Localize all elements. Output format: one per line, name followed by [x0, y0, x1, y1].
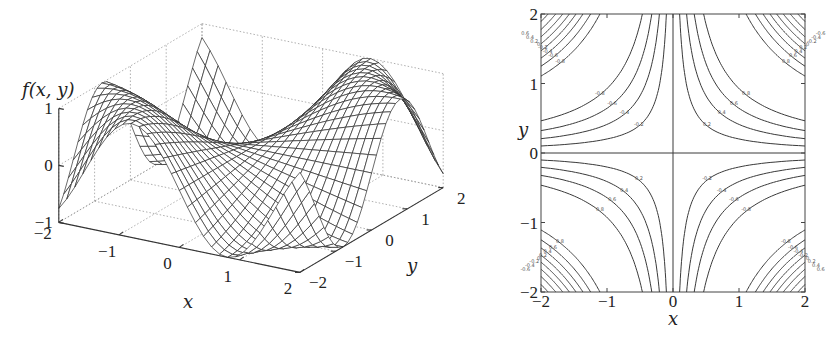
- surface-x-tick-label: −1: [98, 242, 116, 261]
- surface-plot: −2−1012−2−1012−101 f(x, y) x y: [20, 24, 465, 312]
- surface-y-tick-label: −1: [345, 252, 363, 271]
- contour-y-axis-label: y: [517, 119, 529, 140]
- figure: −2−1012−2−1012−101 f(x, y) x y -0.8-0.8-…: [0, 0, 827, 337]
- contour-level-label: 0.6: [789, 52, 797, 58]
- contour-level-label: -0.8: [741, 206, 751, 212]
- surface-x-tick-label: 1: [223, 267, 232, 286]
- contour-x-axis-label: x: [668, 308, 678, 329]
- contour-level-label: 0.8: [742, 90, 750, 96]
- contour-level-label: 0.6: [608, 196, 616, 202]
- contour-level-label: 0.4: [718, 109, 726, 115]
- contour-level-label: -0.8: [555, 58, 565, 64]
- surface-y-tick-label: 2: [457, 189, 466, 208]
- contour-level-label: -0.2: [634, 121, 644, 127]
- surface-y-tick-label: −2: [309, 273, 327, 292]
- contour-level-label: 0.8: [782, 58, 790, 64]
- contour-level-label: -0.6: [729, 196, 739, 202]
- contour-y-tick-label: 1: [530, 75, 539, 94]
- surface-y-axis-label: y: [406, 255, 418, 276]
- contour-level-label: -0.4: [619, 109, 629, 115]
- contour-y-tick-label: 0: [530, 144, 539, 163]
- surface-y-tick-label: 1: [421, 210, 430, 229]
- contour-level-label: 0.8: [596, 206, 604, 212]
- contour-level-label: -0.8: [595, 90, 605, 96]
- contour-level-label: -0.4: [717, 187, 727, 193]
- contour-x-tick-label: 2: [801, 292, 810, 311]
- contour-level-label: 0.2: [635, 175, 643, 181]
- contour-level-label: 0.6: [549, 244, 557, 250]
- contour-level-label: 0.2: [703, 121, 711, 127]
- surface-z-tick-label: 1: [44, 99, 53, 118]
- contour-level-label: -0.2: [702, 175, 712, 181]
- contour-y-tick-label: −1: [520, 214, 538, 233]
- contour-plot: -0.8-0.8-0.8-0.8-0.6-0.6-0.6-0.6-0.6-0.6…: [517, 5, 826, 329]
- contour-level-label: 0.4: [620, 187, 628, 193]
- surface-z-axis-label: f(x, y): [20, 79, 74, 100]
- contour-y-tick-label: −2: [520, 283, 538, 302]
- contour-level-label: 0.8: [556, 238, 564, 244]
- surface-mesh: [59, 38, 443, 258]
- contour-x-tick-label: −1: [598, 292, 616, 311]
- surface-x-axis-label: x: [183, 291, 193, 312]
- contour-x-tick-label: 1: [735, 292, 744, 311]
- surface-x-tick-label: 0: [163, 254, 172, 273]
- contour-lines: -0.8-0.8-0.8-0.8-0.6-0.6-0.6-0.6-0.6-0.6…: [520, 14, 825, 292]
- contour-level-label: 0.6: [521, 30, 529, 36]
- contour-level-label: 0.6: [817, 266, 825, 272]
- surface-z-tick-label: −1: [35, 213, 53, 232]
- surface-z-tick-label: 0: [44, 156, 53, 175]
- surface-y-tick-label: 0: [385, 231, 394, 250]
- contour-level-label: -0.6: [607, 100, 617, 106]
- surface-x-tick-label: 2: [284, 279, 293, 298]
- contour-level-label: 0.6: [730, 100, 738, 106]
- contour-y-tick-label: 2: [530, 5, 539, 24]
